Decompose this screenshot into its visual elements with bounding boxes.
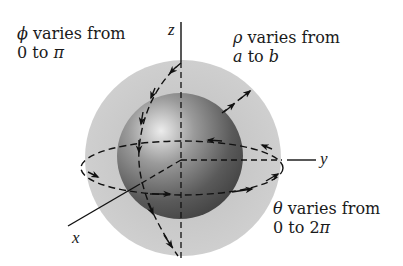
rho-text: varies from xyxy=(242,28,340,47)
theta-range: 0 to 2 xyxy=(273,218,320,237)
z-axis-label: z xyxy=(168,20,175,40)
theta-text: varies from xyxy=(283,199,381,218)
rho-lower: a xyxy=(233,47,243,66)
phi-symbol: ϕ xyxy=(17,24,28,43)
x-axis-label: x xyxy=(72,228,80,248)
pi-symbol: π xyxy=(320,218,331,237)
rho-line-2: a to b xyxy=(233,47,340,66)
rho-to: to xyxy=(243,47,269,66)
phi-range: 0 to xyxy=(17,43,53,62)
theta-line-1: θ varies from xyxy=(273,199,380,218)
phi-annotation: ϕ varies from 0 to π xyxy=(17,24,125,62)
phi-line-1: ϕ varies from xyxy=(17,24,125,43)
phi-line-2: 0 to π xyxy=(17,43,125,62)
theta-line-2: 0 to 2π xyxy=(273,218,380,237)
phi-text: varies from xyxy=(28,24,126,43)
theta-annotation: θ varies from 0 to 2π xyxy=(273,199,380,237)
theta-symbol: θ xyxy=(273,199,283,218)
rho-upper: b xyxy=(269,47,279,66)
rho-symbol: ρ xyxy=(233,28,242,47)
theta-arrow-back2 xyxy=(208,140,222,141)
rho-annotation: ρ varies from a to b xyxy=(233,28,340,66)
pi-symbol: π xyxy=(53,43,64,62)
rho-line-1: ρ varies from xyxy=(233,28,340,47)
y-axis-label: y xyxy=(320,149,328,169)
